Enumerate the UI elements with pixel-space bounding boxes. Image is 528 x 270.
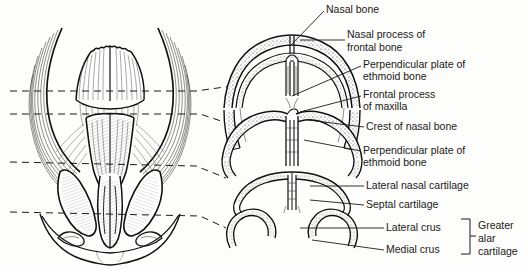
label-lateral-crus: Lateral crus [386, 221, 441, 233]
label-nasal-bone: Nasal bone [326, 3, 379, 15]
label-greater-alar-cartilage-line1: Greater [478, 219, 514, 231]
label-greater-alar-cartilage-line3: cartilage [478, 245, 518, 257]
label-medial-crus: Medial crus [386, 243, 440, 255]
label-greater-alar-cartilage-line2: alar [478, 232, 496, 244]
label-nasal-process-frontal-line1: Nasal process of [347, 28, 425, 40]
label-perpendicular-plate-2-line1: Perpendicular plate of [363, 144, 465, 156]
nasal-skeleton-figure: Nasal bone Nasal process of frontal bone… [0, 0, 528, 270]
label-septal-cartilage: Septal cartilage [366, 198, 439, 210]
label-crest-nasal-bone: Crest of nasal bone [366, 120, 457, 132]
label-perpendicular-plate-2-line2: ethmoid bone [363, 156, 427, 168]
label-frontal-process-maxilla-line2: of maxilla [363, 100, 408, 112]
label-perpendicular-plate-1-line2: ethmoid bone [363, 70, 427, 82]
label-frontal-process-maxilla-line1: Frontal process [363, 88, 435, 100]
label-lateral-nasal-cartilage: Lateral nasal cartilage [366, 179, 469, 191]
label-nasal-process-frontal-line2: frontal bone [347, 41, 403, 53]
label-perpendicular-plate-1-line1: Perpendicular plate of [363, 58, 465, 70]
